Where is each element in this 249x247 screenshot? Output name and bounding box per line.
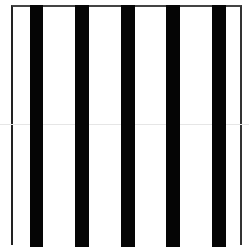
stripe-5 (212, 5, 226, 247)
stripe-4 (166, 5, 180, 247)
stripe-1 (30, 5, 43, 247)
stripe-3 (121, 5, 135, 247)
stripe-2 (75, 5, 89, 247)
